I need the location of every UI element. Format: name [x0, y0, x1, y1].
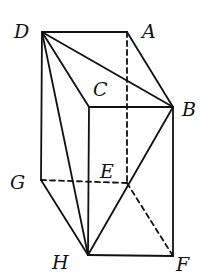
label-E: E [100, 162, 114, 181]
edge-DG [41, 32, 42, 180]
edge-GE [41, 180, 127, 183]
label-A: A [142, 22, 156, 41]
polyhedron-drawing [0, 0, 207, 279]
label-B: B [182, 100, 196, 119]
label-H: H [52, 253, 69, 272]
edge-HF [88, 255, 173, 256]
label-G: G [10, 173, 25, 192]
label-D: D [14, 22, 29, 41]
edge-AB [127, 32, 173, 107]
geometry-figure: D A C B G E H F [0, 0, 207, 279]
label-F: F [176, 255, 189, 274]
edge-EF [127, 183, 173, 256]
edge-DH [42, 32, 88, 255]
label-C: C [93, 80, 108, 99]
